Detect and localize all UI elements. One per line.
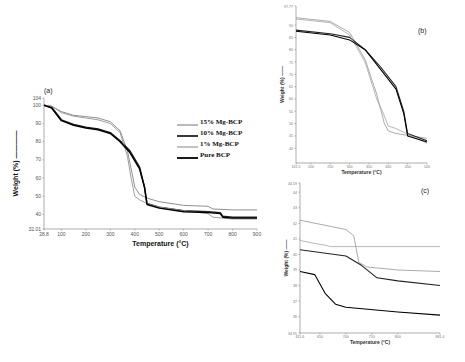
x-tick-label: 900 bbox=[253, 231, 262, 237]
legend-item: 1% Mg-BCP bbox=[177, 140, 239, 148]
x-tick-label: 500 bbox=[424, 165, 430, 169]
legend-label: 10% Mg-BCP bbox=[200, 129, 243, 137]
x-tick-label: 200 bbox=[82, 231, 91, 237]
series-line-pure-bcp bbox=[296, 31, 427, 142]
panel-label: (c) bbox=[421, 187, 429, 195]
tga-figure: 28.810020030040050060070080090032.014050… bbox=[0, 0, 465, 362]
legend: 15% Mg-BCP10% Mg-BCP1% Mg-BCPPure BCP bbox=[177, 118, 243, 159]
y-tick-label: 60 bbox=[35, 175, 41, 181]
x-tick-label: 300 bbox=[106, 231, 115, 237]
x-tick-label: 881.4 bbox=[436, 335, 445, 339]
y-axis-label: Weight (%) —— bbox=[283, 239, 289, 276]
x-tick-label: 800 bbox=[395, 335, 401, 339]
y-tick-label: 85 bbox=[289, 36, 293, 40]
x-tick-label: 450 bbox=[405, 165, 411, 169]
y-tick-label: 55 bbox=[289, 110, 293, 114]
y-tick-label: 40 bbox=[293, 253, 297, 257]
y-tick-label: 39 bbox=[293, 268, 297, 272]
y-tick-label: 80 bbox=[35, 138, 41, 144]
legend-item: 10% Mg-BCP bbox=[177, 129, 243, 137]
y-tick-label: 44 bbox=[293, 191, 297, 195]
legend-label: 15% Mg-BCP bbox=[200, 118, 243, 126]
series-line-15-mg-bcp bbox=[296, 18, 427, 139]
x-tick-label: 250 bbox=[327, 165, 333, 169]
x-tick-label: 200 bbox=[308, 165, 314, 169]
y-tick-label: 37 bbox=[293, 300, 297, 304]
y-tick-label: 70 bbox=[35, 156, 41, 162]
y-tick-label: 40 bbox=[289, 147, 293, 151]
y-tick-label: 100 bbox=[33, 102, 42, 108]
x-axis-label: Temperature (°C) bbox=[132, 240, 188, 248]
y-tick-label: 75 bbox=[289, 61, 293, 65]
y-tick-label: 32.01 bbox=[28, 226, 41, 232]
y-tick-label: 70 bbox=[289, 73, 293, 77]
y-tick-label: 80 bbox=[289, 48, 293, 52]
x-tick-label: 500 bbox=[155, 231, 164, 237]
y-tick-label: 40 bbox=[35, 211, 41, 217]
y-tick-label: 60 bbox=[289, 97, 293, 101]
y-tick-label: 38 bbox=[293, 284, 297, 288]
x-tick-label: 600 bbox=[179, 231, 188, 237]
y-tick-label: 50 bbox=[35, 193, 41, 199]
x-tick-label: 650 bbox=[317, 335, 323, 339]
y-tick-label: 43 bbox=[293, 206, 297, 210]
series-line-1-mg-bcp bbox=[300, 240, 440, 246]
legend-item: 15% Mg-BCP bbox=[177, 118, 243, 126]
y-tick-label: 36 bbox=[293, 315, 297, 319]
legend-item: Pure BCP bbox=[177, 151, 231, 159]
x-tick-label: 28.8 bbox=[39, 231, 49, 237]
y-tick-label: 65 bbox=[289, 85, 293, 89]
chart-panel-c: 611.6650700750800881.444.594443424140393… bbox=[283, 182, 445, 346]
x-tick-label: 400 bbox=[385, 165, 391, 169]
series-line-10-mg-bcp bbox=[300, 250, 440, 286]
x-tick-label: 100 bbox=[57, 231, 66, 237]
x-axis-label: Temperature (°C) bbox=[350, 339, 391, 345]
y-tick-label: 50 bbox=[289, 122, 293, 126]
x-tick-label: 400 bbox=[131, 231, 140, 237]
y-tick-label: 44.59 bbox=[288, 182, 297, 186]
y-tick-label: 97.77 bbox=[284, 5, 293, 9]
panel-label: (b) bbox=[418, 27, 427, 35]
y-tick-label: 34.95 bbox=[288, 332, 297, 336]
y-tick-label: 45 bbox=[289, 134, 293, 138]
x-axis-label: Temperature (°C) bbox=[341, 169, 382, 175]
y-axis-label: Weight (%) ———— bbox=[12, 131, 20, 197]
y-tick-label: 104 bbox=[33, 95, 42, 101]
x-tick-label: 700 bbox=[343, 335, 349, 339]
y-tick-label: 90 bbox=[35, 120, 41, 126]
series-line-10-mg-bcp bbox=[296, 30, 427, 141]
panel-label: (a) bbox=[44, 87, 53, 95]
legend-label: Pure BCP bbox=[200, 151, 231, 159]
legend-label: 1% Mg-BCP bbox=[200, 140, 239, 148]
chart-panel-a: 28.810020030040050060070080090032.014050… bbox=[12, 87, 261, 248]
series-line-pure-bcp bbox=[300, 272, 440, 316]
y-axis-label: Weight (%) —— bbox=[279, 66, 285, 103]
y-tick-label: 41 bbox=[293, 237, 297, 241]
x-tick-label: 161.5 bbox=[292, 165, 301, 169]
y-tick-label: 42 bbox=[293, 222, 297, 226]
series-line-1-mg-bcp bbox=[296, 19, 427, 143]
x-tick-label: 700 bbox=[204, 231, 213, 237]
x-tick-label: 611.6 bbox=[296, 335, 305, 339]
x-tick-label: 800 bbox=[228, 231, 237, 237]
y-tick-label: 90 bbox=[289, 24, 293, 28]
series-line-15-mg-bcp bbox=[300, 220, 440, 271]
chart-panel-b: 161.520025030035040045050097.77908580757… bbox=[279, 5, 430, 176]
